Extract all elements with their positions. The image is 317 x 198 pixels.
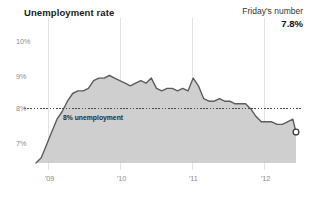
y-tick-label-9: 9%	[16, 72, 27, 81]
plot-area: 10% 9% 8% 7% 8% unemployment '09 '10 '11…	[0, 0, 317, 198]
threshold-annotation-label: 8% unemployment	[63, 114, 124, 122]
x-tick-label-2012: '12	[261, 174, 270, 183]
y-tick-label-8: 8%	[16, 104, 27, 113]
x-axis-labels: '09 '10 '11 '12	[45, 174, 270, 183]
y-tick-label-7: 7%	[16, 139, 27, 148]
y-axis-labels: 10% 9% 8% 7%	[16, 37, 31, 148]
x-tick-label-2011: '11	[189, 174, 198, 183]
x-tick-label-2010: '10	[117, 174, 126, 183]
x-tick-label-2009: '09	[45, 174, 54, 183]
unemployment-rate-chart-card: Unemployment rate Friday's number 7.8%	[0, 0, 317, 198]
y-tick-label-10: 10%	[16, 37, 31, 46]
chart-svg: 10% 9% 8% 7% 8% unemployment '09 '10 '11…	[0, 0, 317, 198]
endpoint-marker[interactable]	[293, 129, 299, 135]
